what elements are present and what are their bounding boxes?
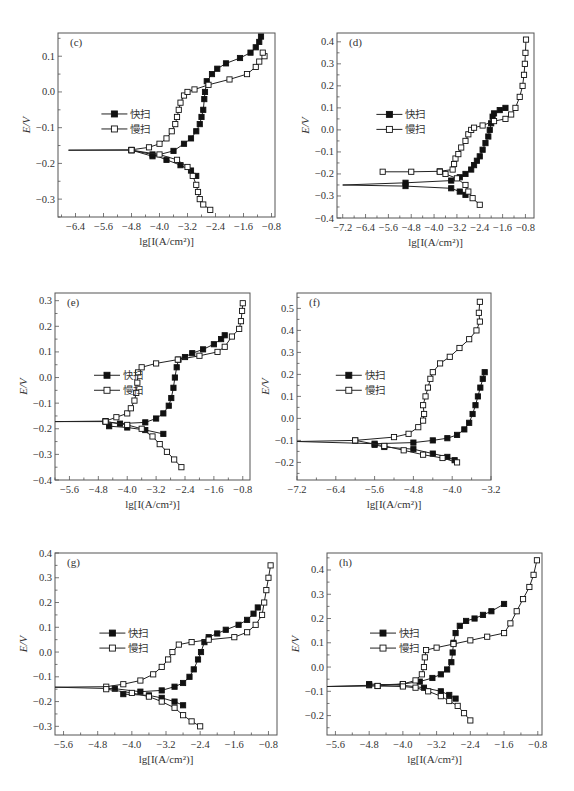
open-square-marker — [176, 107, 181, 112]
y-tick-label: −0.1 — [275, 435, 294, 446]
open-square-marker — [174, 114, 179, 119]
y-tick-label: −0.2 — [305, 710, 324, 721]
open-square-marker — [146, 694, 151, 699]
open-square-marker — [477, 319, 482, 324]
open-square-marker — [262, 600, 267, 605]
legend-filled-square-icon — [104, 372, 110, 378]
open-square-marker — [520, 83, 525, 88]
open-square-marker — [178, 100, 183, 105]
filled-square-marker — [171, 385, 176, 390]
open-square-marker — [164, 136, 169, 141]
y-tick-label: 0.4 — [39, 548, 53, 559]
open-square-marker — [474, 328, 479, 333]
y-tick-label: 0.3 — [39, 572, 52, 583]
open-square-marker — [509, 112, 514, 117]
legend-label: 慢扫 — [123, 384, 143, 396]
open-square-marker — [471, 125, 476, 130]
open-square-marker — [121, 682, 126, 687]
filled-square-marker — [198, 649, 203, 654]
filled-square-marker — [171, 148, 176, 153]
legend: 快扫慢扫 — [99, 627, 148, 654]
series-slow-scan — [380, 37, 529, 207]
filled-square-marker — [257, 39, 262, 44]
x-tick-label: −4.8 — [360, 739, 379, 750]
open-square-marker — [416, 425, 421, 430]
y-axis-label: E/V — [299, 116, 311, 135]
open-square-marker — [159, 699, 164, 704]
y-tick-label: −0.2 — [275, 457, 294, 468]
y-tick-label: 0.3 — [321, 58, 334, 69]
open-square-marker — [264, 588, 269, 593]
filled-square-marker — [411, 447, 416, 452]
open-square-marker — [527, 584, 532, 589]
open-square-marker — [440, 455, 445, 460]
filled-square-marker — [457, 623, 462, 628]
open-square-marker — [438, 694, 443, 699]
filled-square-marker — [470, 411, 475, 416]
open-square-marker — [459, 145, 464, 150]
open-square-marker — [128, 406, 133, 411]
x-axis-label: lg[I(A/cm²)] — [139, 235, 194, 248]
legend-label: 快扫 — [405, 108, 425, 120]
open-square-marker — [138, 678, 143, 683]
filled-square-marker — [473, 403, 478, 408]
open-square-marker — [468, 638, 473, 643]
filled-square-marker — [486, 134, 491, 139]
x-tick-label: −4.0 — [118, 484, 137, 495]
filled-square-marker — [172, 684, 177, 689]
open-square-marker — [443, 171, 448, 176]
filled-square-marker — [143, 420, 148, 425]
open-square-marker — [245, 630, 250, 635]
y-tick-label: −0.1 — [33, 671, 52, 682]
filled-square-marker — [403, 183, 408, 188]
open-square-marker — [391, 435, 396, 440]
open-square-marker — [508, 621, 513, 626]
filled-square-marker — [200, 347, 205, 352]
open-square-marker — [413, 685, 418, 690]
open-square-marker — [268, 563, 273, 568]
open-square-marker — [522, 61, 527, 66]
x-tick-label: −2.4 — [470, 222, 490, 233]
open-square-marker — [253, 64, 258, 69]
filled-square-marker — [489, 609, 494, 614]
x-tick-label: −5.6 — [379, 222, 398, 233]
filled-square-marker — [450, 650, 455, 655]
open-square-marker — [169, 129, 174, 134]
filled-square-marker — [253, 45, 258, 50]
open-square-marker — [457, 345, 462, 350]
filled-square-marker — [181, 141, 186, 146]
open-square-marker — [150, 434, 155, 439]
y-tick-label: 0.0 — [42, 86, 55, 97]
filled-square-marker — [430, 451, 435, 456]
x-tick-label: −2.4 — [206, 221, 226, 232]
open-square-marker — [476, 310, 481, 315]
open-square-marker — [185, 164, 190, 169]
plot-frame — [297, 293, 491, 480]
filled-square-marker — [211, 342, 216, 347]
series-fast-scan — [297, 370, 487, 463]
legend-label: 快扫 — [123, 369, 143, 381]
filled-square-marker — [462, 427, 467, 432]
filled-square-marker — [255, 605, 260, 610]
legend-open-square-icon — [111, 126, 117, 132]
open-square-marker — [239, 308, 244, 313]
y-axis-label: E/V — [17, 634, 29, 653]
open-square-marker — [447, 354, 452, 359]
open-square-marker — [517, 94, 522, 99]
plot-frame — [327, 553, 542, 735]
y-tick-label: 0.1 — [321, 102, 334, 113]
y-tick-label: 0.4 — [281, 325, 295, 336]
legend-label: 快扫 — [130, 108, 150, 120]
filled-square-marker — [164, 157, 169, 162]
open-square-marker — [180, 713, 185, 718]
open-square-marker — [501, 630, 506, 635]
open-square-marker — [154, 361, 159, 366]
open-square-marker — [229, 334, 234, 339]
filled-square-marker — [467, 420, 472, 425]
open-square-marker — [463, 182, 468, 187]
filled-square-marker — [209, 71, 214, 76]
y-tick-label: −0.4 — [33, 475, 53, 486]
x-axis-label: lg[I(A/cm²)] — [367, 498, 422, 511]
x-tick-label: −4.8 — [88, 739, 107, 750]
x-tick-label: −0.8 — [516, 222, 535, 233]
